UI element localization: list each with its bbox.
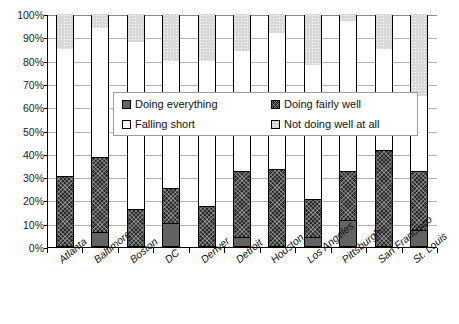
- legend-label: Doing everything: [135, 98, 218, 110]
- legend-label: Doing fairly well: [284, 98, 361, 110]
- bar-segment: [269, 170, 285, 247]
- legend-item-doing-fairly-well: Doing fairly well: [271, 98, 361, 110]
- bar-segment: [92, 14, 108, 28]
- bar-segment: [163, 14, 179, 61]
- y-axis-tick-label: 20%: [4, 196, 44, 206]
- bar-segment: [234, 172, 250, 237]
- y-axis-tick-label: 10%: [4, 220, 44, 230]
- bar-segment: [57, 49, 73, 177]
- legend-label: Not doing well at all: [284, 118, 379, 130]
- bar-group: [91, 15, 109, 248]
- bar-segment: [128, 14, 144, 42]
- bar-segment: [340, 14, 356, 21]
- bar-group: [56, 15, 74, 248]
- bar[interactable]: [56, 15, 74, 248]
- bar-segment: [199, 14, 215, 61]
- bar-segment: [128, 210, 144, 247]
- legend-item-doing-everything: Doing everything: [122, 98, 218, 110]
- bar-segment: [269, 14, 285, 33]
- bar-segment: [305, 200, 321, 237]
- y-axis: 100%90%80%70%60%50%40%30%20%10%0%: [0, 15, 44, 248]
- stacked-bar-chart: 100%90%80%70%60%50%40%30%20%10%0% Atlant…: [0, 0, 459, 324]
- bar-segment: [57, 14, 73, 49]
- y-axis-tick-label: 90%: [4, 33, 44, 43]
- legend-swatch-falling-short-icon: [122, 120, 131, 129]
- x-axis-label: DC: [162, 246, 181, 265]
- bar-segment: [376, 14, 392, 49]
- bar-segment: [411, 14, 427, 96]
- x-axis-labels: AtlantaBaltimoreBostonDCDenverDetroitHou…: [0, 250, 459, 324]
- bar[interactable]: [91, 15, 109, 248]
- y-axis-tick-label: 40%: [4, 150, 44, 160]
- bar-segment: [234, 14, 250, 51]
- bar-segment: [57, 177, 73, 247]
- chart-legend: Doing everything Doing fairly well Falli…: [113, 92, 418, 136]
- bar-segment: [92, 158, 108, 233]
- y-axis-tick-label: 80%: [4, 57, 44, 67]
- y-axis-tick-label: 70%: [4, 80, 44, 90]
- bar-segment: [305, 14, 321, 65]
- legend-label: Falling short: [135, 118, 195, 130]
- y-axis-tick-label: 30%: [4, 173, 44, 183]
- y-axis-tick-label: 50%: [4, 127, 44, 137]
- bar-segment: [199, 207, 215, 247]
- legend-swatch-doing-everything-icon: [122, 100, 131, 109]
- bar-segment: [92, 28, 108, 158]
- legend-item-not-doing-well: Not doing well at all: [271, 118, 379, 130]
- legend-swatch-not-doing-well-icon: [271, 120, 280, 129]
- legend-item-falling-short: Falling short: [122, 118, 195, 130]
- bar-segment: [163, 224, 179, 247]
- bar-segment: [340, 172, 356, 221]
- legend-swatch-doing-fairly-well-icon: [271, 100, 280, 109]
- bar-segment: [163, 189, 179, 224]
- y-axis-tick-label: 100%: [4, 10, 44, 20]
- y-axis-tick-label: 60%: [4, 103, 44, 113]
